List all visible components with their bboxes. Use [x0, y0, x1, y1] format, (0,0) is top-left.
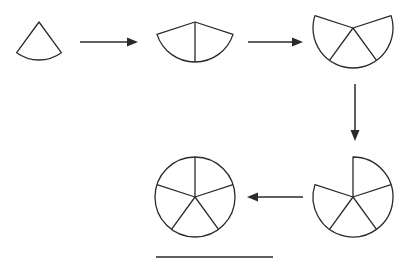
- step-2-sectors: [157, 22, 233, 62]
- arrow-head-icon: [292, 38, 303, 47]
- step-3-outline: [313, 16, 393, 68]
- process-arrows: [80, 38, 360, 202]
- arrow-head-icon: [127, 38, 138, 47]
- step-1-sectors: [17, 22, 62, 60]
- arrow-4-to-5: [247, 193, 303, 202]
- arrow-head-icon: [247, 193, 258, 202]
- sector-divider: [195, 197, 219, 229]
- sector-shapes: [17, 16, 393, 237]
- sector-divider: [353, 185, 391, 197]
- sector-divider: [329, 28, 353, 60]
- step-1-outline: [17, 22, 62, 60]
- sector-divider: [353, 28, 377, 60]
- sector-divider: [329, 197, 353, 229]
- diagram-svg: [0, 0, 409, 260]
- arrow-3-to-4: [351, 84, 360, 141]
- step-5-sectors: [155, 157, 235, 237]
- sector-divider: [195, 185, 233, 197]
- step-3-sectors: [313, 16, 393, 68]
- arrow-head-icon: [351, 130, 360, 141]
- sector-divider: [171, 197, 195, 229]
- step-4-sectors: [313, 157, 393, 237]
- sector-divider: [157, 185, 195, 197]
- arrow-1-to-2: [80, 38, 138, 47]
- diagram-canvas: [0, 0, 409, 260]
- sector-divider: [353, 197, 377, 229]
- arrow-2-to-3: [248, 38, 303, 47]
